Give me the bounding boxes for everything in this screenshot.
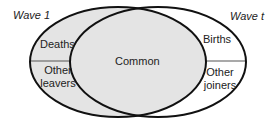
deaths-label: Deaths <box>40 38 75 51</box>
births-label: Births <box>203 33 231 46</box>
other-leavers-label: Other leavers <box>40 64 76 90</box>
common-label: Common <box>115 55 160 68</box>
wave1-label: Wave 1 <box>13 9 50 22</box>
wavet-label: Wave t <box>230 10 264 23</box>
other-joiners-label: Other joiners <box>202 66 238 92</box>
venn-diagram: Wave 1 Wave t Deaths Other leavers Commo… <box>0 0 274 124</box>
